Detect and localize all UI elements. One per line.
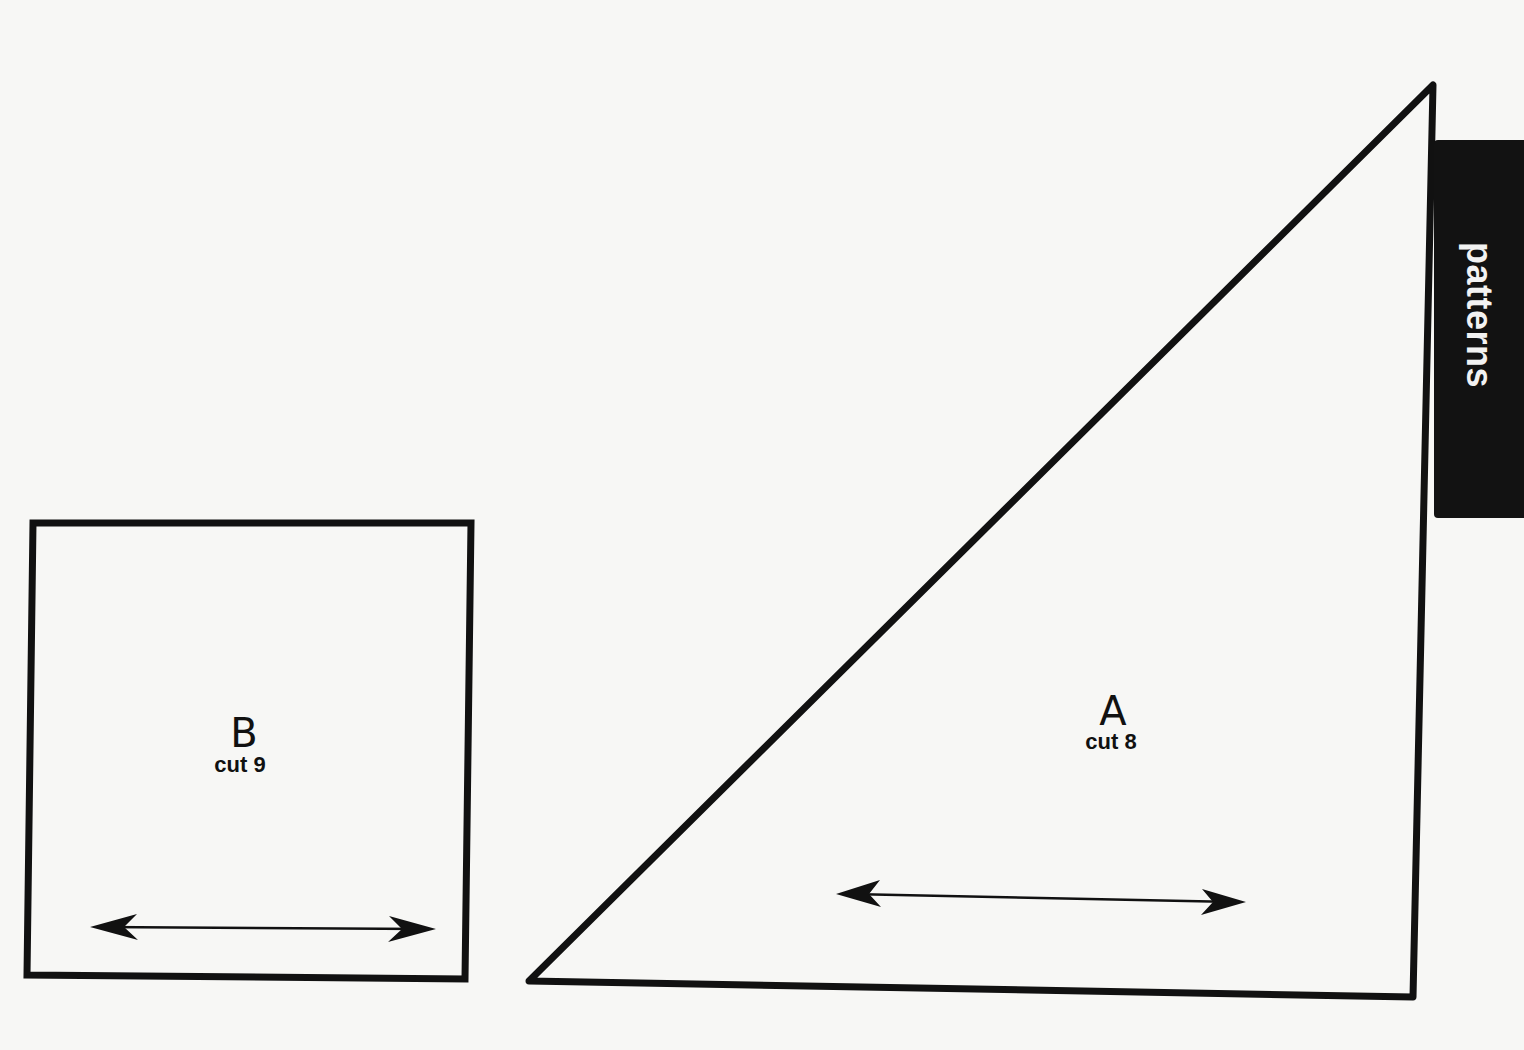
piece-a-letter: A <box>1099 691 1126 731</box>
section-tab-label: patterns <box>1458 242 1500 388</box>
piece-a-outline <box>529 85 1433 997</box>
section-tab: patterns <box>1434 140 1524 518</box>
piece-a-cut-count: cut 8 <box>1085 731 1136 753</box>
piece-b-cut-count: cut 9 <box>214 754 265 776</box>
pattern-pieces-canvas <box>0 0 1524 1050</box>
piece-b-grain-arrow-icon <box>90 914 436 942</box>
piece-b-letter: B <box>230 713 257 753</box>
piece-a-grain-arrow-icon <box>836 880 1246 915</box>
